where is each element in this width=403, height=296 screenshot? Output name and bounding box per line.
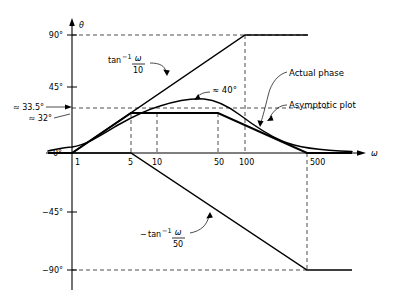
tan-inv-w10-sup: −1: [122, 53, 132, 61]
neg-tan-inv-w50-sign: −: [140, 230, 147, 239]
ytick-label-33p5: ≈ 33.5°: [13, 103, 44, 112]
asymptotic-plot-label: Asymptotic plot: [289, 100, 357, 110]
xtick-label-500: 500: [310, 158, 325, 167]
xtick-label-100: 100: [239, 158, 254, 167]
xtick-label-10: 10: [152, 158, 162, 167]
neg-tan-inv-w50-denominator: 50: [173, 240, 183, 249]
approx-40-label: ≈ 40°: [212, 85, 237, 95]
ytick-label-90: 90°: [49, 31, 63, 40]
tan-inv-w10-fn: tan: [108, 56, 121, 65]
neg-tan-inv-w50-fn: tan: [148, 230, 161, 239]
neg-tan-inv-w50-sup: −1: [162, 227, 172, 235]
bode-phase-figure: 90° 45° ≈ 33.5° ≈ 32° 0° −45° −90° 1 5 1…: [0, 0, 403, 296]
phase-plot-canvas: 90° 45° ≈ 33.5° ≈ 32° 0° −45° −90° 1 5 1…: [0, 0, 403, 296]
ytick-label-neg45: −45°: [42, 208, 63, 217]
neg-tan-inv-w50-numerator: ω: [175, 228, 182, 237]
y-axis-title: θ: [79, 21, 84, 30]
xtick-label-5: 5: [128, 158, 133, 167]
tan-inv-w10-numerator: ω: [135, 54, 142, 63]
ytick-label-32: ≈ 32°: [29, 114, 52, 123]
tan-inv-w10-denominator: 10: [133, 66, 143, 75]
actual-phase-label: Actual phase: [289, 68, 344, 78]
x-axis-title: ω: [371, 149, 378, 158]
xtick-label-50: 50: [214, 158, 224, 167]
ytick-label-45: 45°: [49, 83, 63, 92]
xtick-label-1: 1: [75, 158, 80, 167]
ytick-label-neg90: −90°: [42, 266, 63, 275]
